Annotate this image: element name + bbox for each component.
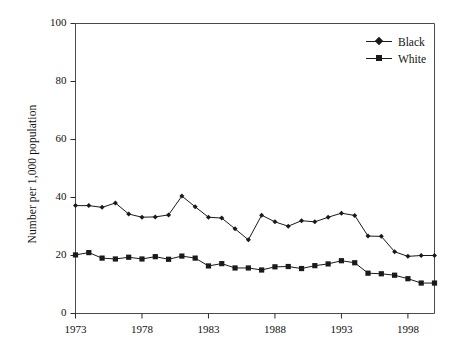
data-point [312,219,317,224]
data-point [73,252,78,257]
data-point [286,264,291,269]
data-point [179,253,184,258]
data-point [379,271,384,276]
data-point [352,260,357,265]
data-point [352,213,357,218]
data-point [339,211,344,216]
data-point [286,224,291,229]
data-point [232,265,237,270]
axis-lines [76,24,435,314]
data-point [419,280,424,285]
y-tick-label: 60 [33,132,67,144]
axis-ticks [71,24,408,319]
data-point [166,257,171,262]
data-point [326,215,331,220]
chart-container: Number per 1,000 population 020406080100… [0,0,459,363]
data-point [246,265,251,270]
data-point [432,253,437,258]
data-point [272,264,277,269]
x-tick-label: 1978 [119,323,165,335]
data-point [366,234,371,239]
x-tick-label: 1998 [385,323,431,335]
legend-label-white: White [392,53,426,65]
x-tick-label: 1973 [53,323,99,335]
data-point [219,261,224,266]
legend-item-white: White [366,50,426,67]
data-point [432,280,437,285]
data-point [139,256,144,261]
y-tick-label: 0 [33,306,67,318]
data-point [99,256,104,261]
series-line-black [76,196,435,256]
data-point [392,273,397,278]
data-series-group [73,194,437,286]
data-point [153,254,158,259]
legend-marker-diamond-icon [366,36,392,48]
y-tick-label: 40 [33,190,67,202]
data-point [86,250,91,255]
x-tick-label: 1983 [185,323,231,335]
y-tick-label: 20 [33,248,67,260]
legend-marker-square-icon [366,53,392,65]
data-point [100,205,105,210]
data-point [139,215,144,220]
data-point [299,218,304,223]
y-tick-label: 100 [33,16,67,28]
data-point [405,254,410,259]
x-tick-label: 1993 [318,323,364,335]
x-tick-label: 1988 [252,323,298,335]
data-point [113,256,118,261]
data-point [86,203,91,208]
data-point [326,261,331,266]
data-point [153,214,158,219]
legend-label-black: Black [392,36,425,48]
data-point [73,203,78,208]
data-point [405,276,410,281]
legend-item-black: Black [366,33,426,50]
data-point [206,263,211,268]
data-point [126,255,131,260]
data-point [259,267,264,272]
data-point [193,256,198,261]
data-point [272,219,277,224]
chart-legend: Black White [366,33,426,67]
data-point [339,258,344,263]
data-point [299,266,304,271]
data-point [365,271,370,276]
data-point [259,213,264,218]
data-point [312,263,317,268]
data-point [419,253,424,258]
y-tick-label: 80 [33,74,67,86]
